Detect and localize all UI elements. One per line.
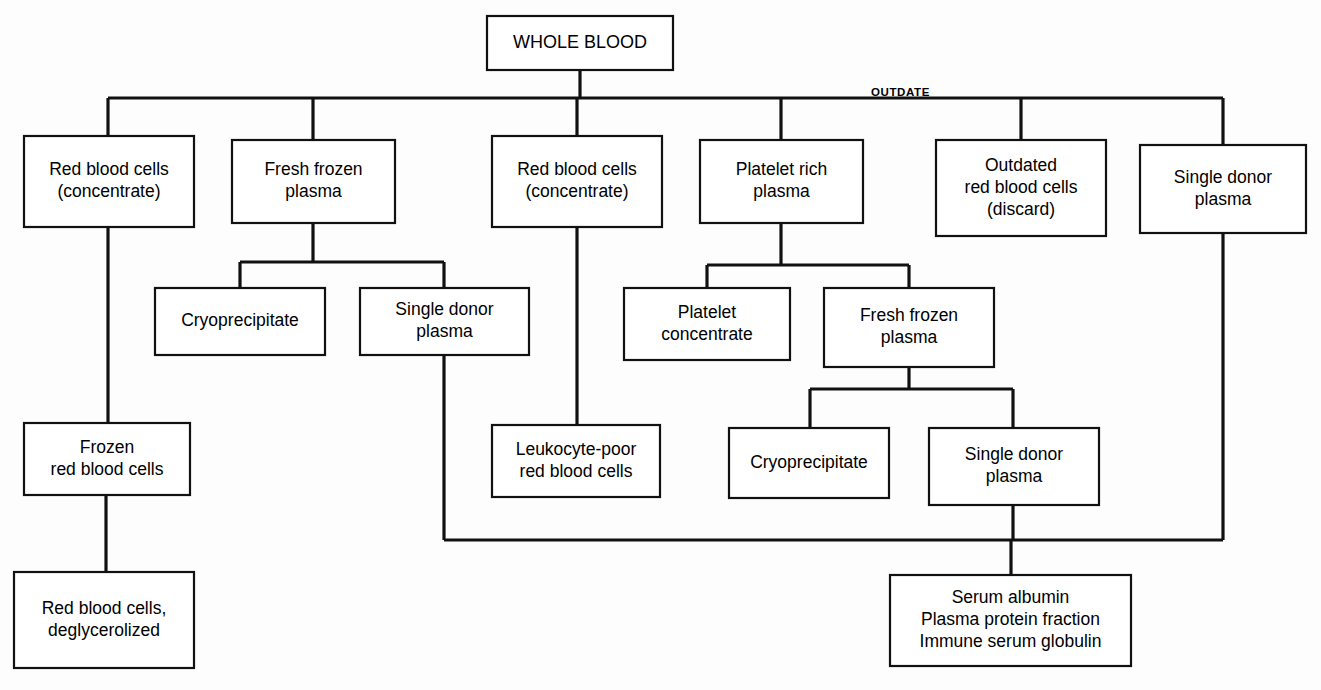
node-single-donor-plasma-r[interactable]: Single donorplasma — [1140, 145, 1306, 233]
node-label-rbc-concentrate-mid-line-1: Red blood cells — [517, 159, 637, 179]
node-fresh-frozen-plasma-1[interactable]: Fresh frozenplasma — [232, 140, 395, 223]
node-label-cryoprecipitate-2-line-1: Cryoprecipitate — [750, 452, 868, 472]
node-single-donor-plasma-1[interactable]: Single donorplasma — [360, 288, 529, 355]
node-label-rbc-deglycerolized-line-1: Red blood cells, — [42, 598, 167, 618]
node-label-single-donor-plasma-1-line-1: Single donor — [395, 299, 493, 319]
node-label-whole-blood-line-1: WHOLE BLOOD — [513, 32, 647, 52]
node-whole-blood[interactable]: WHOLE BLOOD — [487, 16, 673, 70]
node-label-single-donor-plasma-2-line-1: Single donor — [965, 444, 1063, 464]
node-label-cryoprecipitate-1-line-1: Cryoprecipitate — [181, 310, 299, 330]
node-platelet-concentrate[interactable]: Plateletconcentrate — [624, 288, 790, 360]
node-cryoprecipitate-2[interactable]: Cryoprecipitate — [729, 428, 889, 498]
node-label-fresh-frozen-plasma-2-line-2: plasma — [881, 327, 938, 347]
flowchart-nodes-group: WHOLE BLOODRed blood cells(concentrate)F… — [14, 16, 1306, 668]
node-label-leukocyte-poor-rbc-line-1: Leukocyte-poor — [516, 439, 637, 459]
node-single-donor-plasma-2[interactable]: Single donorplasma — [929, 428, 1099, 505]
node-frozen-rbc[interactable]: Frozenred blood cells — [24, 423, 190, 495]
node-label-fresh-frozen-plasma-1-line-1: Fresh frozen — [264, 159, 362, 179]
node-label-frozen-rbc-line-1: Frozen — [80, 437, 134, 457]
node-label-single-donor-plasma-1-line-2: plasma — [416, 321, 473, 341]
node-label-rbc-deglycerolized-line-2: deglycerolized — [48, 620, 160, 640]
node-outdated-rbc-discard[interactable]: Outdatedred blood cells(discard) — [936, 140, 1106, 236]
node-label-outdated-rbc-discard-line-3: (discard) — [987, 199, 1055, 219]
node-label-plasma-derivatives-line-2: Plasma protein fraction — [921, 609, 1100, 629]
node-label-outdated-rbc-discard-line-2: red blood cells — [965, 177, 1078, 197]
node-label-frozen-rbc-line-2: red blood cells — [51, 459, 164, 479]
node-label-plasma-derivatives-line-1: Serum albumin — [952, 587, 1070, 607]
edge-labels-group: OUTDATE — [871, 86, 930, 98]
node-label-platelet-concentrate-line-2: concentrate — [661, 324, 752, 344]
node-label-rbc-concentrate-left-line-2: (concentrate) — [57, 181, 160, 201]
node-label-single-donor-plasma-r-line-2: plasma — [1195, 189, 1252, 209]
node-leukocyte-poor-rbc[interactable]: Leukocyte-poorred blood cells — [492, 425, 660, 497]
node-fresh-frozen-plasma-2[interactable]: Fresh frozenplasma — [824, 288, 994, 367]
flowchart-canvas: WHOLE BLOODRed blood cells(concentrate)F… — [0, 0, 1321, 690]
node-label-rbc-concentrate-left-line-1: Red blood cells — [49, 159, 169, 179]
node-label-platelet-rich-plasma-line-2: plasma — [753, 181, 810, 201]
node-rbc-concentrate-mid[interactable]: Red blood cells(concentrate) — [492, 136, 662, 227]
node-label-plasma-derivatives-line-3: Immune serum globulin — [920, 631, 1102, 651]
node-label-single-donor-plasma-2-line-2: plasma — [986, 466, 1043, 486]
blood-component-flowchart: WHOLE BLOODRed blood cells(concentrate)F… — [0, 0, 1321, 690]
node-label-rbc-concentrate-mid-line-2: (concentrate) — [525, 181, 628, 201]
node-label-fresh-frozen-plasma-1-line-2: plasma — [285, 181, 342, 201]
node-label-platelet-concentrate-line-1: Platelet — [678, 302, 737, 322]
edge-label-outdate: OUTDATE — [871, 86, 930, 98]
node-rbc-deglycerolized[interactable]: Red blood cells,deglycerolized — [14, 572, 194, 668]
node-label-leukocyte-poor-rbc-line-2: red blood cells — [520, 461, 633, 481]
node-platelet-rich-plasma[interactable]: Platelet richplasma — [700, 140, 863, 223]
node-plasma-derivatives[interactable]: Serum albuminPlasma protein fractionImmu… — [890, 575, 1131, 666]
node-cryoprecipitate-1[interactable]: Cryoprecipitate — [155, 288, 325, 355]
node-rbc-concentrate-left[interactable]: Red blood cells(concentrate) — [24, 136, 194, 227]
node-label-platelet-rich-plasma-line-1: Platelet rich — [736, 159, 827, 179]
node-label-fresh-frozen-plasma-2-line-1: Fresh frozen — [860, 305, 958, 325]
node-label-single-donor-plasma-r-line-1: Single donor — [1174, 167, 1272, 187]
node-label-outdated-rbc-discard-line-1: Outdated — [985, 155, 1057, 175]
